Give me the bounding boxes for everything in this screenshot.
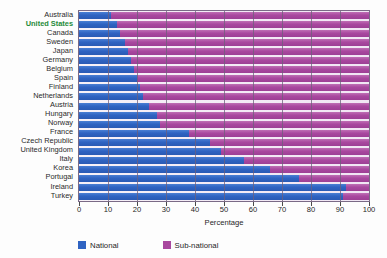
legend-label-subnational: Sub-national [175, 241, 219, 250]
bar-segment-subnational [117, 21, 369, 28]
bar-segment-subnational [134, 66, 369, 73]
plot-area [78, 10, 370, 202]
bar-segment-national [79, 12, 111, 19]
bar-segment-subnational [128, 48, 369, 55]
x-axis-tick-label: 30 [162, 206, 170, 214]
legend-swatch-national-icon [78, 241, 86, 249]
bar-segment-subnational [221, 148, 369, 155]
bar-segment-subnational [143, 93, 369, 100]
y-axis-label-canada: Canada [47, 29, 73, 36]
bar-segment-subnational [270, 166, 369, 173]
y-axis-label-japan: Japan [53, 47, 73, 54]
gridline [224, 11, 225, 201]
bar-segment-subnational [140, 84, 369, 91]
gridline [166, 11, 167, 201]
y-axis-label-spain: Spain [54, 74, 73, 81]
legend-item-national: National [78, 241, 119, 250]
bar-segment-subnational [157, 112, 369, 119]
bar-segment-subnational [343, 193, 369, 200]
gridline [340, 11, 341, 201]
bar-segment-subnational [244, 157, 369, 164]
x-axis-title: Percentage [78, 218, 370, 227]
bar-segment-subnational [111, 12, 369, 19]
bar-segment-subnational [160, 121, 369, 128]
x-axis-tick-label: 80 [307, 206, 315, 214]
y-axis-label-norway: Norway [48, 119, 73, 126]
y-axis-label-ireland: Ireland [50, 183, 73, 190]
x-axis: 0102030405060708090100 [78, 202, 370, 218]
gridline [311, 11, 312, 201]
bar-segment-subnational [125, 39, 369, 46]
bar-segment-national [79, 175, 299, 182]
bar-segment-national [79, 93, 143, 100]
y-axis-label-czech-republic: Czech Republic [21, 137, 73, 144]
gridline [137, 11, 138, 201]
bar-segment-subnational [210, 139, 370, 146]
y-axis-label-france: France [50, 128, 73, 135]
gridline [195, 11, 196, 201]
gridline [282, 11, 283, 201]
x-axis-tick-label: 50 [220, 206, 228, 214]
x-axis-tick-label: 20 [133, 206, 141, 214]
y-axis-label-belgium: Belgium [46, 65, 73, 72]
y-axis-label-hungary: Hungary [45, 110, 73, 117]
stacked-bar-chart: AustraliaUnited StatesCanadaSwedenJapanG… [0, 0, 387, 258]
bar-segment-national [79, 139, 210, 146]
bar-segment-national [79, 48, 128, 55]
legend-label-national: National [90, 241, 119, 250]
y-axis-label-finland: Finland [49, 83, 73, 90]
bar-segment-national [79, 112, 157, 119]
x-axis-tick-label: 10 [104, 206, 112, 214]
bar-segment-national [79, 193, 343, 200]
bar-segment-subnational [299, 175, 369, 182]
x-axis-tick-label: 70 [278, 206, 286, 214]
y-axis-category-labels: AustraliaUnited StatesCanadaSwedenJapanG… [0, 10, 76, 202]
legend-item-subnational: Sub-national [163, 241, 219, 250]
bar-segment-national [79, 157, 244, 164]
gridline [108, 11, 109, 201]
bar-segment-national [79, 66, 134, 73]
x-axis-tick-label: 90 [336, 206, 344, 214]
bar-segment-national [79, 21, 117, 28]
x-axis-tick-label: 40 [191, 206, 199, 214]
bar-segment-national [79, 30, 120, 37]
y-axis-label-netherlands: Netherlands [33, 92, 73, 99]
bar-segment-national [79, 130, 189, 137]
x-axis-tick-label: 100 [363, 206, 376, 214]
y-axis-label-portugal: Portugal [45, 173, 73, 180]
bar-segment-national [79, 84, 140, 91]
gridline [253, 11, 254, 201]
bar-segment-national [79, 121, 160, 128]
bar-segment-national [79, 184, 346, 191]
bar-segment-subnational [120, 30, 369, 37]
bar-segment-subnational [149, 103, 369, 110]
y-axis-label-united-kingdom: United Kingdom [20, 146, 73, 153]
bar-segment-national [79, 103, 149, 110]
y-axis-label-austria: Austria [50, 101, 73, 108]
y-axis-label-united-states: United States [26, 20, 73, 27]
y-axis-label-germany: Germany [43, 56, 73, 63]
chart-legend: National Sub-national [78, 238, 370, 252]
y-axis-label-turkey: Turkey [51, 192, 73, 199]
bar-segment-national [79, 148, 221, 155]
y-axis-label-sweden: Sweden [46, 38, 73, 45]
x-axis-tick-label: 0 [77, 206, 81, 214]
bar-segment-subnational [189, 130, 369, 137]
y-axis-label-italy: Italy [59, 155, 73, 162]
bar-segment-subnational [346, 184, 369, 191]
y-axis-label-korea: Korea [53, 164, 73, 171]
bar-segment-national [79, 39, 125, 46]
gridline [369, 11, 370, 201]
x-axis-tick-label: 60 [249, 206, 257, 214]
bar-segment-national [79, 57, 131, 64]
y-axis-label-australia: Australia [44, 11, 73, 18]
legend-swatch-subnational-icon [163, 241, 171, 249]
